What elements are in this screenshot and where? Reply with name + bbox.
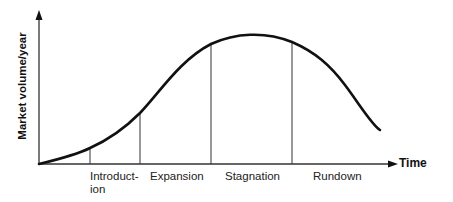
x-axis-label: Time [399, 156, 427, 170]
life-cycle-curve [39, 35, 380, 164]
phase-label-rundown: Rundown [313, 170, 362, 183]
phase-label-stagnation: Stagnation [225, 170, 280, 183]
y-axis-arrow-icon [36, 10, 43, 20]
y-axis-label: Market volume/year [16, 16, 28, 156]
phase-label-expansion: Expansion [150, 170, 204, 183]
phase-label-introduction: Introduct- ion [90, 170, 139, 196]
x-axis-arrow-icon [388, 161, 398, 168]
